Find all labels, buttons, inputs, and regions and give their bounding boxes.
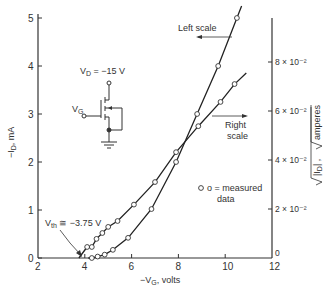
data-point-marker [132, 202, 137, 207]
left-y-tick-label: 0 [28, 253, 34, 264]
right-y-tick-label: 8 × 10⁻² [275, 57, 307, 67]
data-point-marker [216, 64, 221, 69]
pmos-circuit-diagram [82, 81, 122, 148]
source-body-node [107, 128, 111, 132]
left-scale-label: Left scale [178, 23, 217, 33]
data-point-marker [195, 112, 200, 117]
left-y-tick-label: 2 [28, 157, 34, 168]
vth-annotation: Vth ≅ −3.75 V [45, 218, 101, 229]
data-point-marker [110, 247, 115, 252]
svg-text:amperes: amperes [312, 104, 322, 140]
data-point-marker [89, 256, 94, 261]
data-point-marker [174, 160, 179, 165]
legend-label-2: data [217, 194, 235, 204]
right-scale-label-2: scale [227, 131, 248, 141]
right-y-tick-label: 4 × 10⁻² [275, 155, 307, 165]
x-axis-label: −VG, volts [140, 275, 181, 286]
right-y-ticks: 02 × 10⁻²4 × 10⁻²6 × 10⁻²8 × 10⁻² [268, 57, 307, 258]
data-point-marker [85, 245, 90, 250]
data-point-marker [153, 180, 158, 185]
left-y-ticks: 012345 [28, 13, 42, 264]
left-arrow-head [196, 35, 202, 39]
left-y-tick-label: 1 [28, 205, 34, 216]
svg-text:|ID| ,: |ID| , [312, 159, 323, 176]
right-y-tick-label: 2 × 10⁻² [275, 204, 307, 214]
data-point-marker [149, 207, 154, 212]
data-curves [79, 6, 246, 260]
legend-label-1: o = measured [207, 183, 262, 193]
right-y-axis-label: |ID| , amperes [311, 104, 323, 185]
data-point-marker [102, 252, 107, 257]
data-point-marker [115, 219, 120, 224]
data-point-marker [89, 245, 94, 250]
legend-marker [199, 186, 204, 191]
vth-arrow [60, 230, 80, 254]
data-point-marker [100, 231, 105, 236]
data-point-marker [232, 82, 237, 87]
x-ticks: 24681012 [35, 254, 281, 272]
right-y-tick-label: 0 [275, 248, 280, 258]
left-y-tick-label: 4 [28, 61, 34, 72]
data-point-marker [218, 100, 223, 105]
x-tick-label: 8 [175, 261, 181, 272]
x-tick-label: 6 [129, 261, 135, 272]
data-point-marker [196, 124, 201, 129]
vd-label: VD = −15 V [80, 66, 125, 77]
right-scale-label-1: Right [225, 120, 247, 130]
data-point-marker [106, 224, 111, 229]
left-y-tick-label: 5 [28, 13, 34, 24]
data-point-marker [235, 16, 240, 21]
data-point-marker [174, 150, 179, 155]
right-y-tick-label: 6 × 10⁻² [275, 106, 307, 116]
left-y-axis-label: −ID, mA [6, 127, 17, 158]
left-scale-curve [88, 6, 241, 258]
right-arrow-head [242, 114, 248, 118]
left-y-tick-label: 3 [28, 109, 34, 120]
x-tick-label: 12 [269, 261, 281, 272]
data-point-marker [95, 254, 100, 259]
vg-label: VG [72, 104, 83, 115]
drain-terminal [107, 81, 111, 85]
x-tick-label: 2 [35, 261, 41, 272]
data-point-marker [94, 236, 99, 241]
x-tick-label: 4 [82, 261, 88, 272]
data-point-marker [126, 235, 131, 240]
x-tick-label: 10 [222, 261, 234, 272]
chart: 24681012 012345 02 × 10⁻²4 × 10⁻²6 × 10⁻… [0, 0, 335, 299]
